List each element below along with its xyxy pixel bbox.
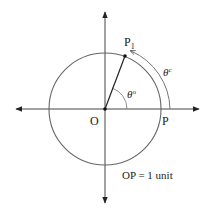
caption-op-unit: OP = 1 unit [122, 169, 173, 181]
origin-point [103, 107, 107, 111]
radius-op1 [105, 56, 125, 109]
origin-label: O [90, 114, 99, 128]
unit-circle-diagram: O P P1 θo θc OP = 1 unit [0, 0, 207, 213]
angle-degrees-label: θo [127, 88, 136, 100]
p-label: P [162, 114, 169, 128]
degree-arc [112, 88, 127, 109]
p1-point [123, 54, 127, 58]
radian-arc-arrow [131, 51, 170, 109]
p1-label: P1 [124, 35, 135, 51]
angle-radians-label: θc [163, 66, 172, 78]
